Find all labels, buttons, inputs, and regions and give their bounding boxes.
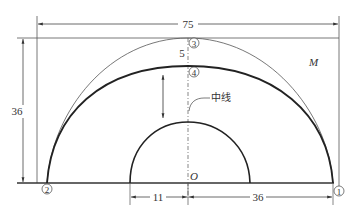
- center-line-leader: [189, 98, 210, 111]
- dimension-11: 11: [131, 191, 187, 203]
- dimension-label-75: 75: [183, 18, 195, 30]
- dimension-label-5: 5: [179, 47, 185, 59]
- dimension-36-horizontal: 36: [189, 191, 332, 203]
- region-label-m: M: [308, 56, 319, 68]
- dimension-75: 75: [38, 18, 338, 30]
- dimension-label-11: 11: [153, 191, 164, 203]
- dimension-label-36-horizontal: 36: [253, 191, 265, 203]
- point-4: 4: [189, 67, 199, 78]
- center-line-label: 中线: [211, 91, 231, 103]
- outer-arc: [47, 38, 333, 183]
- svg-text:2: 2: [45, 185, 50, 195]
- technical-drawing: 75 36 5 中线 M O 3 4 2 1: [0, 0, 359, 219]
- frame-lines: [17, 16, 339, 186]
- dimension-label-36-vertical: 36: [12, 105, 24, 117]
- point-3: 3: [189, 38, 199, 49]
- point-2: 2: [42, 184, 52, 195]
- point-1: 1: [334, 186, 344, 197]
- svg-text:3: 3: [192, 39, 197, 49]
- svg-text:4: 4: [192, 68, 197, 78]
- svg-text:1: 1: [337, 187, 342, 197]
- diagram-canvas: 75 36 5 中线 M O 3 4 2 1: [0, 0, 359, 219]
- origin-label: O: [190, 170, 198, 182]
- dimension-36-vertical: 36: [12, 39, 24, 182]
